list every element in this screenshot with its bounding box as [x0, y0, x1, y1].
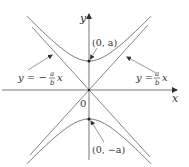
right-asymptote-pointer [127, 57, 156, 73]
x-axis-label: x [172, 92, 179, 105]
lower-vertex-point [87, 117, 90, 120]
upper-vertex-pointer [91, 48, 98, 59]
hyperbola-diagram: y x 0 (0, a) (0, −a) y = − a b x y = a b… [0, 0, 189, 167]
left-asymptote-pointer [28, 55, 52, 70]
upper-vertex-text: (0, a) [92, 37, 117, 48]
asymptote-negative-slope [32, 27, 150, 157]
left-asym-denominator: b [50, 79, 55, 87]
right-asym-suffix: x [162, 72, 168, 83]
origin-point [88, 89, 90, 91]
right-asym-numerator: a [155, 70, 159, 78]
upper-vertex-label: (0, a) [92, 37, 117, 48]
lower-vertex-text: (0, −a) [92, 144, 125, 155]
left-asymptote-label: y = − a b x [17, 70, 63, 87]
left-asym-numerator: a [50, 70, 54, 78]
lower-vertex-label: (0, −a) [92, 144, 125, 155]
upper-vertex-point [87, 59, 90, 62]
y-axis-label: y [79, 12, 87, 25]
lower-vertex-pointer [91, 121, 104, 142]
left-asym-prefix: y = − [17, 72, 47, 83]
origin-label: 0 [80, 98, 86, 109]
right-asymptote-label: y = a b x [135, 70, 168, 87]
right-asym-prefix: y = [135, 72, 153, 83]
left-asym-suffix: x [57, 72, 63, 83]
right-asym-denominator: b [155, 79, 160, 87]
